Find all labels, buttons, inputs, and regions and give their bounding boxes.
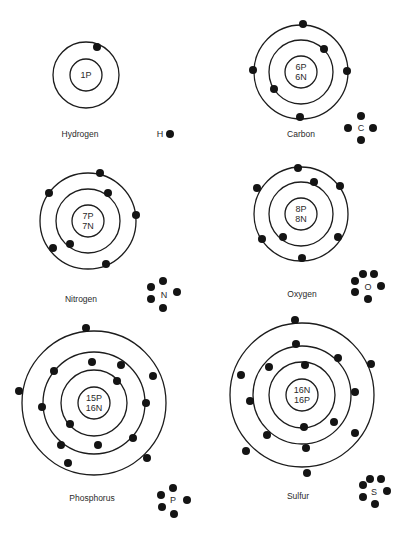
valence-electron-dot <box>359 493 367 501</box>
electron-dot <box>143 454 151 462</box>
valence-electron-dot <box>371 500 379 508</box>
valence-electron-dot <box>359 270 367 278</box>
nucleus-label: 7N <box>82 221 94 231</box>
electron-dot <box>96 169 104 177</box>
electron-dot <box>249 66 257 74</box>
element-symbol: O <box>364 282 371 292</box>
electron-dot <box>88 358 96 366</box>
element-name-label: Phosphorus <box>69 493 114 503</box>
electron-dot <box>310 178 318 186</box>
electron-dot <box>237 371 245 379</box>
valence-electron-dot <box>344 124 352 132</box>
nucleus-label: 16P <box>294 395 310 405</box>
atom-nitrogen: 7P7NNitrogenN <box>40 169 181 312</box>
nucleus-label: 8N <box>295 214 307 224</box>
electron-dot <box>263 431 271 439</box>
electron-dot <box>50 367 58 375</box>
electron-dot <box>343 67 351 75</box>
electron-dot <box>45 189 53 197</box>
valence-electron-dot <box>351 277 359 285</box>
lewis-dot-structure: H <box>157 129 174 139</box>
valence-electron-dot <box>158 503 166 511</box>
electron-dot <box>104 189 112 197</box>
electron-dot <box>292 340 300 348</box>
nucleus-label: 6P <box>295 62 306 72</box>
element-symbol: H <box>157 129 164 139</box>
electron-dot <box>302 444 310 452</box>
valence-electron-dot <box>166 130 174 138</box>
valence-electron-dot <box>383 487 391 495</box>
valence-electron-dot <box>169 484 177 492</box>
electron-dot <box>142 399 150 407</box>
electron-dot <box>294 164 302 172</box>
electron-dot <box>117 361 125 369</box>
element-name-label: Oxygen <box>287 289 317 299</box>
atoms-layer: 1PHydrogenH6P6NCarbonC7P7NNitrogenN8P8NO… <box>15 20 391 518</box>
electron-dot <box>113 377 121 385</box>
nucleus-label: 8P <box>295 204 306 214</box>
valence-electron-dot <box>183 496 191 504</box>
valence-electron-dot <box>357 112 365 120</box>
element-name-label: Hydrogen <box>62 129 99 139</box>
electron-dot <box>149 372 157 380</box>
electron-dot <box>246 397 254 405</box>
electron-dot <box>265 363 273 371</box>
bohr-atom-diagram: 1PHydrogenH6P6NCarbonC7P7NNitrogenN8P8NO… <box>0 0 411 539</box>
electron-dot <box>300 423 308 431</box>
electron-dot <box>301 361 309 369</box>
electron-dot <box>82 324 90 332</box>
nucleus-label: 6N <box>295 72 307 82</box>
nucleus-label: 15P <box>86 393 102 403</box>
electron-dot <box>334 233 342 241</box>
electron-dot <box>351 429 359 437</box>
valence-electron-dot <box>369 124 377 132</box>
valence-electron-dot <box>170 510 178 518</box>
electron-dot <box>296 113 304 121</box>
electron-dot <box>291 316 299 324</box>
electron-dot <box>102 260 110 268</box>
valence-electron-dot <box>359 481 367 489</box>
valence-electron-dot <box>159 277 167 285</box>
electron-dot <box>336 182 344 190</box>
electron-dot <box>279 233 287 241</box>
valence-electron-dot <box>159 304 167 312</box>
electron-dot <box>299 20 307 28</box>
electron-dot <box>66 420 74 428</box>
electron-dot <box>15 387 23 395</box>
electron-dot <box>253 184 261 192</box>
electron-dot <box>367 360 375 368</box>
element-name-label: Nitrogen <box>65 294 97 304</box>
valence-electron-dot <box>377 475 385 483</box>
lewis-dot-structure: C <box>344 112 377 144</box>
electron-dot <box>66 240 74 248</box>
valence-electron-dot <box>147 283 155 291</box>
electron-dot <box>93 43 101 51</box>
electron-dot <box>320 45 328 53</box>
valence-electron-dot <box>377 282 385 290</box>
electron-dot <box>351 388 359 396</box>
electron-dot <box>49 244 57 252</box>
nucleus-label: 16N <box>86 403 103 413</box>
valence-electron-dot <box>147 295 155 303</box>
atom-phosphorus: 15P16NPhosphorusP <box>15 324 191 518</box>
atom-hydrogen: 1PHydrogenH <box>53 42 174 139</box>
lewis-dot-structure: S <box>359 475 391 508</box>
element-symbol: N <box>161 290 168 300</box>
valence-electron-dot <box>364 295 372 303</box>
electron-dot <box>57 441 65 449</box>
element-name-label: Carbon <box>287 129 315 139</box>
nucleus-label: 1P <box>80 70 91 80</box>
lewis-dot-structure: P <box>157 484 191 518</box>
nucleus-label: 16N <box>294 385 311 395</box>
element-name-label: Sulfur <box>287 491 309 501</box>
electron-dot <box>270 85 278 93</box>
electron-dot <box>330 418 338 426</box>
nucleus-label: 7P <box>82 211 93 221</box>
electron-dot <box>298 254 306 262</box>
lewis-dot-structure: O <box>351 270 385 303</box>
electron-dot <box>303 469 311 477</box>
valence-electron-dot <box>370 270 378 278</box>
electron-dot <box>129 434 137 442</box>
element-symbol: S <box>371 487 377 497</box>
element-symbol: P <box>170 495 176 505</box>
